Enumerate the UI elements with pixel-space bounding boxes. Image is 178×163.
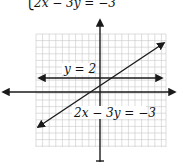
label-y-equals-2: y = 2	[63, 62, 96, 76]
system-equation: ⎩ 2x − 3y = −3	[25, 0, 116, 11]
graph-canvas: ⎩ 2x − 3y = −3 y = 2 2x − 3y = −3	[0, 0, 178, 163]
equation-text: 2x − 3y = −3	[33, 0, 116, 10]
grid	[36, 34, 166, 147]
label-2x-minus-3y: 2x − 3y = −3	[73, 106, 156, 120]
